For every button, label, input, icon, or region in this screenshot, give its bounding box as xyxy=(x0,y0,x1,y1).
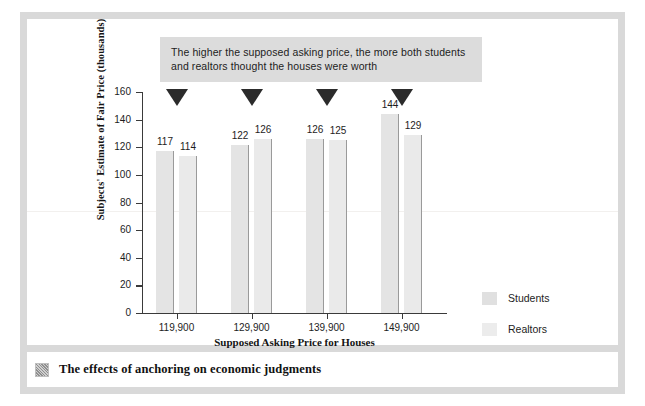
bar-realtors-119900[interactable]: 114 xyxy=(179,156,197,313)
annotation-callout: The higher the supposed asking price, th… xyxy=(160,37,482,82)
y-axis-tick xyxy=(136,147,142,148)
y-axis-tick xyxy=(136,313,142,314)
bar-value-label: 126 xyxy=(242,124,284,135)
y-axis-tick-label: 40 xyxy=(97,252,131,263)
thumbnail-image-icon xyxy=(35,363,49,377)
x-axis-title: Supposed Asking Price for Houses xyxy=(142,336,447,348)
bar-students-149900[interactable]: 144 xyxy=(381,114,399,313)
bar-value-label: 125 xyxy=(317,125,359,136)
bar-realtors-149900[interactable]: 129 xyxy=(404,135,422,313)
annotation-line-1: The higher the supposed asking price, th… xyxy=(171,45,472,59)
x-axis-tick xyxy=(327,313,328,319)
bar-students-129900[interactable]: 122 xyxy=(231,145,249,314)
bar-students-119900[interactable]: 117 xyxy=(156,151,174,313)
y-axis-title: Subjects' Estimate of Fair Price (thousa… xyxy=(95,5,106,235)
x-axis-tick-label: 119,900 xyxy=(142,322,212,333)
figure-caption-bar: The effects of anchoring on economic jud… xyxy=(27,352,618,387)
bar-students-139900[interactable]: 126 xyxy=(306,139,324,313)
x-axis-tick-label: 139,900 xyxy=(292,322,362,333)
legend-swatch-students xyxy=(482,292,497,305)
y-axis-tick xyxy=(136,92,142,93)
y-axis-tick xyxy=(136,120,142,121)
x-axis-tick xyxy=(402,313,403,319)
y-axis-tick-label: 20 xyxy=(97,279,131,290)
bar-value-label: 144 xyxy=(369,99,411,110)
annotation-line-2: and realtors thought the houses were wor… xyxy=(171,59,472,73)
y-axis-tick xyxy=(136,230,142,231)
x-axis-tick xyxy=(177,313,178,319)
y-axis-tick xyxy=(136,258,142,259)
legend-item-realtors[interactable]: Realtors xyxy=(482,318,549,340)
bar-value-label: 114 xyxy=(167,141,209,152)
legend-label: Students xyxy=(508,292,549,304)
y-axis-tick xyxy=(136,175,142,176)
bar-value-label: 129 xyxy=(392,120,434,131)
y-axis-tick xyxy=(136,203,142,204)
x-axis-tick-label: 149,900 xyxy=(367,322,437,333)
figure-page: The higher the supposed asking price, th… xyxy=(0,0,645,406)
bar-realtors-129900[interactable]: 126 xyxy=(254,139,272,313)
bar-realtors-139900[interactable]: 125 xyxy=(329,140,347,313)
legend-label: Realtors xyxy=(508,323,547,335)
plot-area: 117122126144114126125129 xyxy=(143,92,443,313)
x-axis-tick-label: 129,900 xyxy=(217,322,287,333)
figure-caption: The effects of anchoring on economic jud… xyxy=(59,362,321,377)
legend-swatch-realtors xyxy=(482,323,497,336)
y-axis-tick xyxy=(136,285,142,286)
chart-legend: StudentsRealtors xyxy=(482,287,549,349)
x-axis-tick xyxy=(252,313,253,319)
y-axis-tick-label: 0 xyxy=(97,307,131,318)
legend-item-students[interactable]: Students xyxy=(482,287,549,309)
bar-chart: The higher the supposed asking price, th… xyxy=(27,19,618,345)
